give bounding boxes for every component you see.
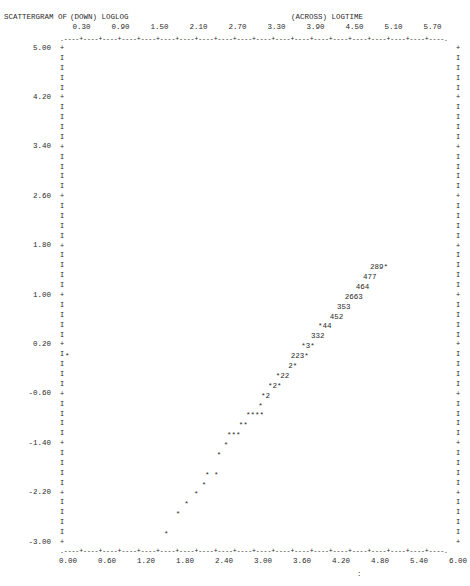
x-tick-top-label: 3.30	[267, 23, 285, 32]
y-axis-left-mark: I	[60, 528, 64, 537]
y-axis-right-mark: I	[456, 172, 460, 181]
y-axis-right-mark: +	[456, 44, 460, 53]
data-point: 332	[311, 332, 325, 341]
y-axis-left-mark: I	[60, 211, 64, 220]
y-axis-right-mark: +	[456, 93, 460, 102]
y-axis-left-mark: I	[60, 468, 64, 477]
y-axis-left-mark: I	[60, 221, 64, 230]
y-axis-right-mark: +	[456, 142, 460, 151]
y-axis-right-mark: I	[456, 379, 460, 388]
data-point: *2*	[268, 381, 282, 390]
y-axis-right-mark: I	[456, 498, 460, 507]
x-variable-label: (ACROSS) LOGTIME	[291, 13, 363, 22]
y-tick-label: 5.00	[5, 44, 51, 53]
y-axis-left-mark: I	[60, 370, 64, 379]
y-axis-left-mark: +	[60, 439, 64, 448]
y-axis-right-mark: I	[456, 152, 460, 161]
y-axis-right-mark: I	[456, 330, 460, 339]
y-axis-left-mark: I	[60, 399, 64, 408]
y-axis-left-mark: I	[60, 419, 64, 428]
y-axis-right-mark: +	[456, 538, 460, 547]
y-axis-left-mark: I	[60, 123, 64, 132]
y-axis-left-mark: +	[60, 241, 64, 250]
y-variable-label: (DOWN) LOGLOG	[70, 13, 129, 22]
x-tick-bottom-label: 6.00	[449, 557, 467, 566]
x-tick-bottom-label: 3.60	[293, 557, 311, 566]
x-tick-bottom-label: 3.00	[254, 557, 272, 566]
y-axis-right-mark: I	[456, 370, 460, 379]
y-axis-left-mark: +	[60, 192, 64, 201]
y-axis-right-mark: I	[456, 350, 460, 359]
y-tick-label: -1.40	[5, 439, 51, 448]
y-axis-right-mark: I	[456, 221, 460, 230]
y-axis-right-mark: I	[456, 399, 460, 408]
y-axis-left-mark: I	[60, 231, 64, 240]
x-tick-top-label: 5.70	[423, 23, 441, 32]
y-axis-right-mark: I	[456, 360, 460, 369]
data-point: 2663	[345, 292, 363, 301]
y-tick-label: 4.20	[5, 93, 51, 102]
data-point: 289*	[370, 263, 388, 272]
data-point: *22	[276, 371, 290, 380]
y-axis-right-mark: I	[456, 528, 460, 537]
y-axis-right-mark: +	[456, 439, 460, 448]
data-point: *	[258, 401, 263, 410]
y-axis-right-mark: I	[456, 449, 460, 458]
x-axis-line: .----+----+----+----+----+----+----+----…	[60, 547, 458, 556]
data-point: 464	[356, 282, 370, 291]
y-axis-left-mark: +	[60, 142, 64, 151]
x-tick-top-label: 0.90	[111, 23, 129, 32]
y-axis-left-mark: +	[60, 538, 64, 547]
y-axis-left-mark: +	[60, 44, 64, 53]
y-axis-left-mark: I	[60, 360, 64, 369]
data-point: ****	[246, 411, 264, 420]
data-point: **	[239, 421, 248, 430]
y-axis-left-mark: +	[60, 340, 64, 349]
data-point: *	[164, 529, 169, 538]
y-axis-left-mark: I	[60, 202, 64, 211]
y-tick-label: 0.20	[5, 340, 51, 349]
y-axis-left-mark: I	[60, 379, 64, 388]
data-point: 223*	[291, 352, 309, 361]
y-axis-left-mark: I	[60, 458, 64, 467]
y-axis-right-mark: I	[456, 211, 460, 220]
y-axis-right-mark: I	[456, 320, 460, 329]
y-axis-left-mark: I	[60, 310, 64, 319]
y-axis-right-mark: I	[456, 73, 460, 82]
y-axis-right-mark: I	[456, 53, 460, 62]
y-axis-left-mark: I	[60, 63, 64, 72]
y-axis-left-mark: +	[60, 389, 64, 398]
y-axis-right-mark: I	[456, 419, 460, 428]
x-tick-bottom-label: 4.80	[371, 557, 389, 566]
y-axis-right-mark: I	[456, 162, 460, 171]
y-axis-right-mark: I	[456, 251, 460, 260]
y-axis-left-mark: I	[60, 498, 64, 507]
chart-title: SCATTERGRAM OF	[4, 13, 67, 22]
y-axis-right-mark: I	[456, 281, 460, 290]
y-axis-right-mark: +	[456, 389, 460, 398]
data-point: *	[202, 480, 207, 489]
y-axis-left-mark: I	[60, 73, 64, 82]
y-tick-label: 1.00	[5, 291, 51, 300]
y-axis-left-mark: I	[60, 261, 64, 270]
y-axis-right-mark: I	[456, 508, 460, 517]
y-axis-right-mark: I	[456, 458, 460, 467]
data-point: 353	[337, 302, 351, 311]
y-axis-left-mark: I	[60, 251, 64, 260]
y-axis-right-mark: I	[456, 202, 460, 211]
y-axis-right-mark: I	[456, 113, 460, 122]
y-axis-left-mark: I	[60, 132, 64, 141]
y-tick-label: -3.00	[5, 538, 51, 547]
y-axis-left-mark: I	[60, 182, 64, 191]
y-axis-left-mark: I	[60, 449, 64, 458]
y-tick-label: -0.60	[5, 389, 51, 398]
x-tick-bottom-label: 1.20	[137, 557, 155, 566]
y-axis-left-mark: I	[60, 478, 64, 487]
x-tick-top-label: 1.50	[150, 23, 168, 32]
data-point: 452	[330, 312, 344, 321]
y-axis-right-mark: I	[456, 300, 460, 309]
y-axis-left-mark: I	[60, 271, 64, 280]
x-tick-top-label: 4.50	[345, 23, 363, 32]
y-tick-label: -2.20	[5, 488, 51, 497]
data-point: *	[217, 450, 222, 459]
